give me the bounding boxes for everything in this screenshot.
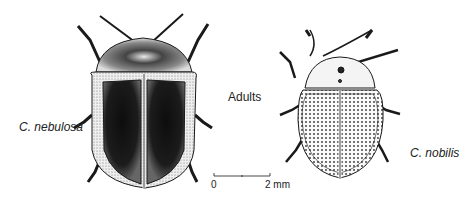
scale-start-label: 0 <box>211 179 217 190</box>
specimen-label-nebulosa: C. nebulosa <box>19 120 83 134</box>
beetle-figure: Adults C. nebulosa C. nobilis 0 2 mm <box>0 0 474 200</box>
scale-end-label: 2 mm <box>265 179 290 190</box>
specimen-label-nobilis: C. nobilis <box>410 146 459 160</box>
figure-title: Adults <box>228 90 261 104</box>
beetle-c-nebulosa <box>74 14 212 188</box>
scale-bar <box>214 173 270 177</box>
beetle-c-nobilis <box>280 30 400 178</box>
